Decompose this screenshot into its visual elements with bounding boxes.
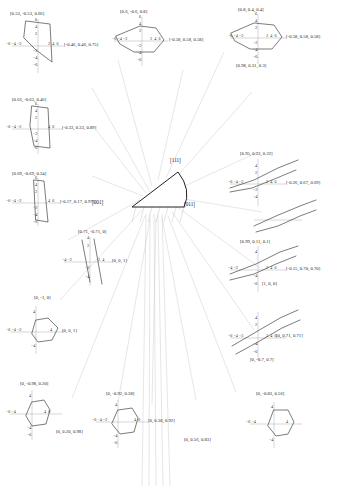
inset-12-xticks-pos: 4 6	[134, 418, 140, 422]
inset-06-secondary-label: [-0.17, 0.17, 0.97]	[60, 200, 94, 205]
inset-04-xticks: −6 −4 −2	[6, 125, 21, 129]
inset-09-xticks: −6 −4 −2	[6, 328, 21, 332]
inset-11-xticks: −6 −4	[6, 410, 16, 414]
inset-07-primary-label: [0.71, -0.71, 0]	[78, 230, 106, 235]
inset-11-secondary-label: [0, 0.20, 0.98]	[56, 430, 83, 435]
inset-04-ytick-4: 4	[35, 109, 37, 113]
inset-02-ytick-2: 2	[139, 29, 141, 33]
inset-01-primary-label: [0.53, -0.53, 0.66]	[10, 12, 44, 17]
inset-03-xticks-pos: 2 4 6	[266, 34, 276, 38]
inset-08-tertiary-label: [1, 0, 0]	[262, 282, 277, 287]
inset-01-ytick-6: 6	[35, 18, 37, 22]
inset-13-ytick-4: 4	[271, 405, 273, 409]
inset-04-ytick-2: 2	[35, 116, 37, 120]
figure-canvas: [001] [011] [111] [0.53, -0.53, 0.66] −6…	[0, 0, 352, 486]
inset-plot-02[interactable]: [0.6, -0.6, 0.8] −6 −4 −2 2 4 6 6 4 2 −2…	[112, 10, 220, 68]
inset-13-primary-label: [0, -0.83, 0.56]	[256, 392, 284, 397]
inset-10-ytick-2: 2	[255, 323, 257, 327]
inset-10-ytick-n4: −4	[253, 342, 257, 346]
inset-12-xticks: −6 −4 −2	[92, 418, 107, 422]
inset-plot-10[interactable]: [0, 0.71, 0.71] −6 −4 −2 2 4 6 4 2 −4 −6…	[228, 306, 336, 364]
inset-plot-06[interactable]: [0.69, -0.69, 0.24] −6 −4 −2 4 6 6 4 2 −…	[6, 172, 116, 228]
inset-plot-08[interactable]: [0.99, 0.11, 0.1] −4 −2 2 4 6 4 −4 −6 [-…	[228, 240, 336, 294]
inset-plot-03[interactable]: [0.8, 0.4, 0.4] −6 −4 −2 2 4 6 6 4 2 −2 …	[228, 8, 336, 66]
inset-03-ytick-n2: −2	[253, 41, 257, 45]
inset-10-xticks-pos: 2 4 6	[266, 334, 276, 338]
inset-06-xticks-pos: 4 6	[48, 199, 54, 203]
inset-plot-09[interactable]: [0, -1, 0] −6 −4 −2 4 4 −4 [0, 0, 1]	[6, 296, 110, 356]
inset-06-ytick-6: 6	[35, 176, 37, 180]
inset-07-xticks-pos: 2 4	[98, 258, 104, 262]
inset-05-xticks-pos: 2 4 6	[266, 180, 276, 184]
inset-12-primary-label: [0, -0.92, 0.38]	[106, 392, 134, 397]
inset-11-primary-label: [0, -0.98, 0.20]	[20, 382, 48, 387]
inset-08-primary-label: [0.99, 0.11, 0.1]	[240, 240, 270, 245]
inset-01-ytick-n6: −6	[33, 63, 37, 67]
inset-01-ytick-n4: −4	[33, 56, 37, 60]
inset-09-xticks-pos: 4	[50, 328, 52, 332]
inset-06-ytick-4: 4	[35, 183, 37, 187]
inset-02-ytick-4: 4	[139, 22, 141, 26]
inset-08-ytick-n4: −4	[253, 274, 257, 278]
inset-plot-12[interactable]: [0, -0.92, 0.38] −6 −4 −2 4 6 4 −4 −6 [0…	[92, 392, 196, 452]
inset-03-ytick-2: 2	[255, 26, 257, 30]
inset-02-ytick-n4: −4	[137, 51, 141, 55]
inset-06-primary-label: [0.69, -0.69, 0.24]	[12, 172, 46, 177]
inset-02-secondary-label: [-0.58, 0.58, 0.58]	[169, 38, 203, 43]
inset-09-primary-label: [0, -1, 0]	[34, 296, 51, 301]
inset-08-xticks: −4 −2	[228, 266, 238, 270]
inset-09-secondary-label: [0, 0, 1]	[62, 329, 77, 334]
inset-plot-14[interactable]	[252, 196, 348, 236]
inset-04-secondary-label: [-0.33, 0.33, 0.89]	[62, 126, 96, 131]
inset-05-primary-label: [0.95, 0.23, 0.22]	[240, 152, 273, 157]
inset-04-xticks-pos: 4 6	[48, 125, 54, 129]
triangle-vertex-011: [011]	[184, 202, 195, 207]
inset-11-ytick-4: 4	[29, 394, 31, 398]
triangle-vertex-111: [111]	[170, 158, 181, 163]
inset-03-tertiary-label: [0.98, 0.31, 0.3]	[236, 64, 266, 69]
inset-01-ytick-n2: −2	[33, 49, 37, 53]
inset-13-secondary-label: [0, 0.56, 0.83]	[184, 438, 211, 443]
inset-12-ytick-4: 4	[115, 403, 117, 407]
inset-10-ytick-4: 4	[255, 316, 257, 320]
inset-07-ytick-n2: −2	[85, 266, 89, 270]
inset-11-ytick-n4: −4	[27, 426, 31, 430]
stereographic-triangle[interactable]: [001] [011] [111]	[118, 160, 208, 222]
inset-09-ytick-4: 4	[33, 310, 35, 314]
inset-01-ytick-2: 2	[35, 32, 37, 36]
inset-03-ytick-6: 6	[255, 12, 257, 16]
inset-11-ytick-n6: −6	[27, 433, 31, 437]
inset-03-secondary-label: [-0.58, 0.58, 0.58]	[286, 35, 320, 40]
inset-plot-07[interactable]: [0.71, -0.71, 0] −4 −2 2 4 4 2 −2 −4 [0,…	[60, 230, 164, 288]
inset-08-secondary-label: [-0.15, 0.70, 0.70]	[286, 267, 320, 272]
inset-03-xticks: −6 −4 −2	[228, 34, 243, 38]
inset-02-ytick-n6: −6	[137, 58, 141, 62]
inset-02-ytick-6: 6	[139, 15, 141, 19]
inset-04-ytick-n2: −2	[33, 132, 37, 136]
inset-12-secondary-label: [0, 0.38, 0.92]	[148, 419, 175, 424]
inset-06-ytick-n6: −6	[33, 220, 37, 224]
inset-05-ytick-4: 4	[255, 164, 257, 168]
inset-01-ytick-4: 4	[35, 25, 37, 29]
inset-plot-13[interactable]: [0, -0.83, 0.56] −6 −4 4 4 −4 [0, 0.56, …	[246, 392, 346, 450]
inset-01-secondary-label: [-0.46, 0.46, 0.75]	[64, 43, 98, 48]
inset-04-ytick-6: 6	[35, 102, 37, 106]
inset-08-xticks-pos: 2 4 6	[266, 266, 276, 270]
inset-plot-01[interactable]: [0.53, -0.53, 0.66] −6 −4 −2 2 4 6 6 4 2…	[6, 12, 116, 74]
inset-02-primary-label: [0.6, -0.6, 0.8]	[120, 10, 147, 15]
inset-12-ytick-n6: −6	[113, 441, 117, 445]
inset-07-ytick-2: 2	[87, 244, 89, 248]
inset-10-secondary-label: [0, -0.7, 0.7]	[250, 358, 274, 363]
inset-07-ytick-4: 4	[87, 236, 89, 240]
inset-02-ytick-n2: −2	[137, 44, 141, 48]
inset-06-ytick-2: 2	[35, 190, 37, 194]
inset-04-ytick-n6: −6	[33, 146, 37, 150]
inset-12-ytick-n4: −4	[113, 434, 117, 438]
inset-03-ytick-n6: −6	[253, 55, 257, 59]
inset-03-ytick-4: 4	[255, 19, 257, 23]
inset-plot-04[interactable]: [0.63, -0.63, 0.46] −6 −4 −2 4 6 6 4 2 −…	[6, 98, 116, 156]
inset-07-secondary-label: [0, 0, 1]	[112, 259, 127, 264]
inset-06-ytick-n2: −2	[33, 206, 37, 210]
inset-06-xticks: −6 −4 −2	[6, 199, 21, 203]
inset-05-ytick-n2: −2	[253, 188, 257, 192]
